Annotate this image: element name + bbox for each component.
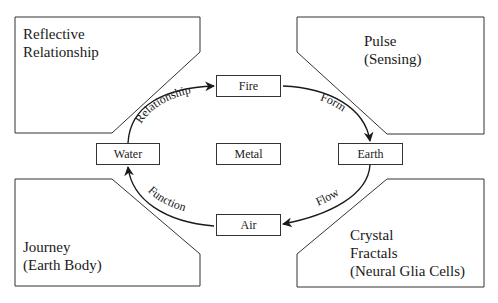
panel-bottom-left-line2: (Earth Body) xyxy=(23,256,102,274)
label-function: Function xyxy=(145,183,187,214)
panel-bottom-right-line1: Crystal xyxy=(350,226,465,244)
panel-bottom-left-line1: Journey xyxy=(23,238,102,256)
node-air: Air xyxy=(216,214,281,236)
panel-top-right-text: Pulse (Sensing) xyxy=(364,32,422,68)
panel-top-left-line2: Relationship xyxy=(23,43,99,61)
svg-text:Function: Function xyxy=(145,183,187,214)
panel-bottom-right-line3: (Neural Glia Cells) xyxy=(350,262,465,280)
panel-top-right-line1: Pulse xyxy=(364,32,422,50)
panel-bottom-right-text: Crystal Fractals (Neural Glia Cells) xyxy=(350,226,465,280)
node-earth: Earth xyxy=(338,143,403,165)
svg-text:Relationship: Relationship xyxy=(132,82,192,125)
node-metal: Metal xyxy=(216,143,281,165)
panel-top-right-line2: (Sensing) xyxy=(364,50,422,68)
label-relationship: Relationship xyxy=(132,82,192,125)
svg-text:Form: Form xyxy=(319,90,350,115)
node-water: Water xyxy=(96,143,160,165)
panel-bottom-left-text: Journey (Earth Body) xyxy=(23,238,102,274)
panel-bottom-right-line2: Fractals xyxy=(350,244,465,262)
panel-top-left-text: Reflective Relationship xyxy=(23,25,99,61)
panel-top-left-line1: Reflective xyxy=(23,25,99,43)
node-fire: Fire xyxy=(216,75,281,97)
label-form: Form xyxy=(319,90,350,115)
